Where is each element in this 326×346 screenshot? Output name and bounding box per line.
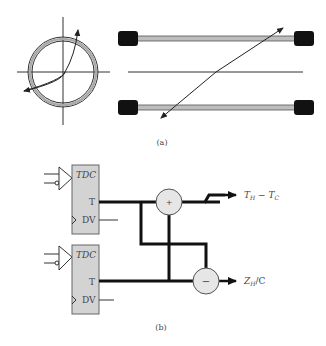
output-zh-c-label: ZH/C — [243, 276, 266, 287]
output-th-tc-label: TH − TC — [244, 190, 280, 201]
pipe-cross-section — [17, 17, 110, 125]
tdc-title: TDC — [76, 250, 96, 260]
subtractor: − — [193, 268, 219, 294]
pin-dv-label: DV — [82, 215, 96, 225]
transducer-icon — [294, 100, 314, 115]
transducer-icon — [294, 31, 314, 46]
pin-t-label: T — [89, 277, 95, 287]
buffer-icon — [59, 167, 72, 190]
panel-a-label: (a) — [156, 138, 167, 147]
pin-t-label: T — [89, 197, 95, 207]
adder: + — [156, 189, 182, 215]
minus-icon: − — [202, 276, 210, 287]
transducer-pairs — [118, 28, 314, 118]
tdc-title: TDC — [76, 170, 96, 180]
pin-dv-label: DV — [82, 295, 96, 305]
buffer-icon — [59, 246, 72, 270]
figure: (a) TDC T DV TDC T DV — [0, 0, 326, 346]
panel-b-label: (b) — [155, 323, 166, 332]
transducer-icon — [118, 31, 138, 46]
plus-icon: + — [166, 198, 173, 207]
tdc-top: TDC T DV — [44, 165, 118, 234]
transducer-icon — [118, 100, 138, 115]
